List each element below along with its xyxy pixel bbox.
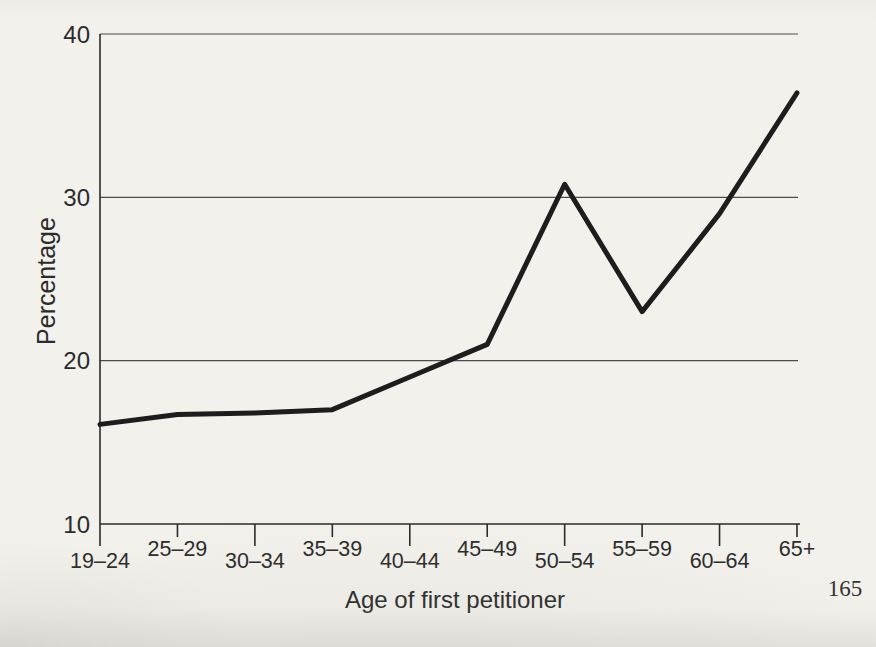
x-tick-label-2: 30–34 (225, 549, 285, 573)
x-tick-label-0: 19–24 (70, 549, 130, 573)
x-tick-label-3: 35–39 (302, 537, 362, 561)
x-tick-label-7: 55–59 (612, 537, 672, 561)
x-tick-label-9: 65+ (779, 537, 815, 561)
y-tick-label-40: 40 (63, 21, 90, 48)
y-tick-label-30: 30 (63, 184, 90, 211)
x-tick-label-4: 40–44 (380, 549, 440, 573)
x-tick-label-8: 60–64 (690, 549, 750, 573)
line-chart: 1020304019–2425–2930–3435–3940–4445–4950… (0, 0, 876, 647)
x-tick-label-6: 50–54 (535, 549, 595, 573)
x-tick-label-1: 25–29 (148, 537, 208, 561)
x-axis-title: Age of first petitioner (345, 586, 565, 614)
page-number: 165 (828, 576, 863, 602)
data-line-percentage-by-age (100, 93, 797, 425)
x-tick-label-5: 45–49 (457, 537, 517, 561)
y-tick-label-10: 10 (63, 511, 90, 538)
y-tick-label-20: 20 (63, 347, 90, 374)
scanned-book-page: Percentage 1020304019–2425–2930–3435–394… (0, 0, 876, 647)
